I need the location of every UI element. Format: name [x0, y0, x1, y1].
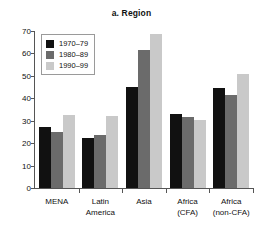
bar: [51, 132, 63, 188]
x-axis-line: [34, 188, 254, 189]
bar-chart: a. Region 010203040506070 1970–791980–89…: [0, 0, 263, 232]
bar: [63, 115, 75, 188]
x-axis-label-line: Africa: [209, 196, 253, 207]
legend-swatch: [46, 51, 54, 59]
bar: [213, 88, 225, 188]
y-axis-tick-mark: [31, 121, 34, 122]
chart-legend: 1970–791980–891990–99: [41, 34, 95, 75]
bar: [126, 87, 138, 188]
bar: [237, 74, 249, 188]
legend-swatch: [46, 62, 54, 70]
x-axis-tick-mark: [166, 189, 167, 193]
legend-item: 1980–89: [46, 49, 88, 60]
y-axis-tick-mark: [31, 53, 34, 54]
bar: [150, 34, 162, 188]
y-axis-tick-mark: [31, 188, 34, 189]
x-axis-label-line: Africa: [166, 196, 210, 207]
y-axis-tick-mark: [31, 98, 34, 99]
chart-title: a. Region: [0, 8, 263, 18]
bar: [225, 95, 237, 188]
x-axis-tick-mark: [79, 189, 80, 193]
x-axis-tick-mark: [253, 189, 254, 193]
y-axis-tick-mark: [31, 31, 34, 32]
legend-label: 1990–99: [59, 61, 88, 70]
x-axis-tick-mark: [209, 189, 210, 193]
bar-group: [213, 31, 249, 188]
y-axis-tick-mark: [31, 143, 34, 144]
legend-swatch: [46, 40, 54, 48]
x-axis-label-line: (non-CFA): [209, 207, 253, 218]
x-axis-category-label: Asia: [122, 196, 166, 207]
bar: [170, 114, 182, 188]
x-axis-label-line: America: [79, 207, 123, 218]
x-axis-category-label: Africa(CFA): [166, 196, 210, 218]
x-axis-label-line: Asia: [122, 196, 166, 207]
y-axis-tick-mark: [31, 166, 34, 167]
legend-item: 1990–99: [46, 60, 88, 71]
x-axis-label-line: MENA: [35, 196, 79, 207]
y-axis-ticks: [0, 31, 35, 188]
x-axis-label-line: Latin: [79, 196, 123, 207]
bar: [82, 138, 94, 188]
legend-item: 1970–79: [46, 38, 88, 49]
bar: [39, 127, 51, 188]
x-axis-category-label: LatinAmerica: [79, 196, 123, 218]
bar: [106, 116, 118, 188]
x-axis-category-label: Africa(non-CFA): [209, 196, 253, 218]
bar: [138, 50, 150, 188]
legend-label: 1980–89: [59, 50, 88, 59]
bar-group: [170, 31, 206, 188]
x-axis-category-label: MENA: [35, 196, 79, 207]
legend-label: 1970–79: [59, 39, 88, 48]
y-axis-tick-mark: [31, 76, 34, 77]
bar: [94, 135, 106, 188]
x-axis-tick-mark: [122, 189, 123, 193]
bar: [194, 120, 206, 188]
bar: [182, 117, 194, 188]
x-axis-label-line: (CFA): [166, 207, 210, 218]
bar-group: [126, 31, 162, 188]
